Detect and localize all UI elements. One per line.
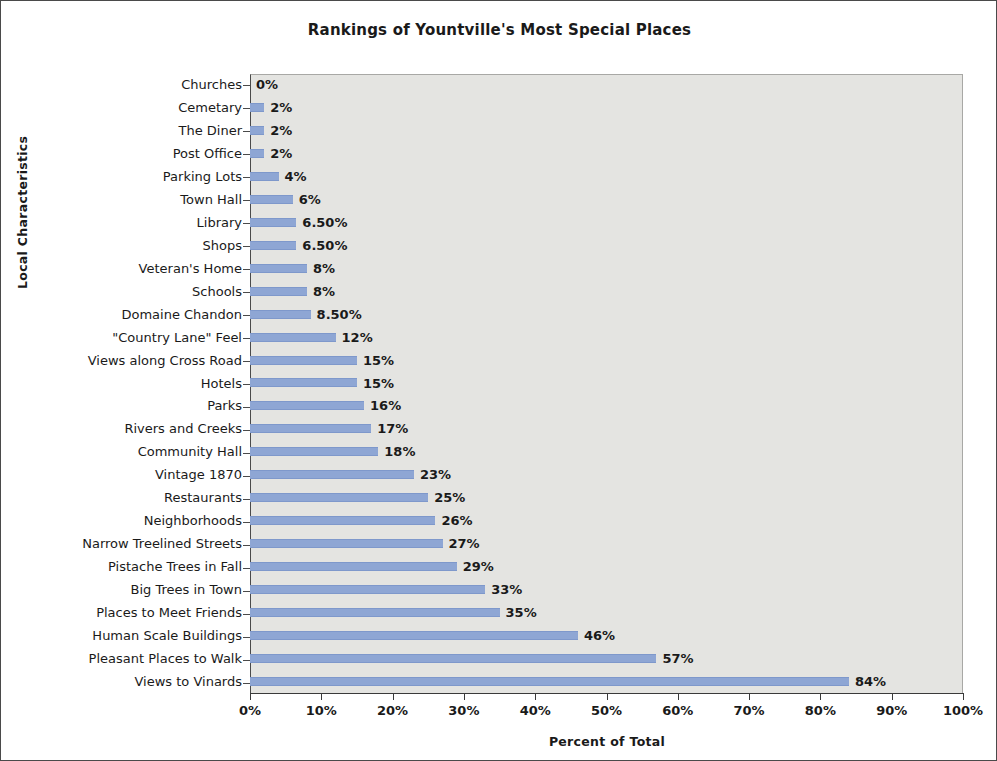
y-axis-tick — [243, 545, 250, 546]
x-axis-tick — [464, 694, 465, 700]
category-label: Vintage 1870 — [1, 464, 242, 487]
x-axis-tick-label: 70% — [734, 703, 765, 718]
bar-value-label: 2% — [265, 97, 292, 120]
category-label: Narrow Treelined Streets — [1, 533, 242, 556]
bar-value-label: 8.50% — [312, 304, 362, 327]
bar-value-label: 2% — [265, 143, 292, 166]
y-axis-tick — [243, 522, 250, 523]
bar-value-label: 16% — [365, 395, 401, 418]
y-axis-tick — [243, 292, 250, 293]
y-axis-tick — [243, 85, 250, 86]
bar-row: Parking Lots4% — [1, 166, 997, 189]
bar-value-label: 18% — [379, 441, 415, 464]
bar-value-label: 23% — [415, 464, 451, 487]
bar-row: Shops6.50% — [1, 235, 997, 258]
y-axis-tick — [243, 384, 250, 385]
bar — [250, 562, 457, 571]
bar — [250, 470, 414, 479]
bar — [250, 378, 357, 387]
bar-row: Views to Vinards84% — [1, 671, 997, 694]
bar-value-label: 29% — [458, 556, 494, 579]
bar — [250, 654, 656, 663]
category-label: Community Hall — [1, 441, 242, 464]
bar — [250, 149, 264, 158]
category-label: Big Trees in Town — [1, 579, 242, 602]
x-axis-tick — [820, 694, 821, 700]
bar-value-label: 35% — [501, 602, 537, 625]
chart-figure: Rankings of Yountville's Most Special Pl… — [0, 0, 997, 761]
bar-value-label: 8% — [308, 258, 335, 281]
x-axis-tick — [535, 694, 536, 700]
y-axis-tick — [243, 315, 250, 316]
bar — [250, 424, 371, 433]
x-axis-tick-label: 30% — [448, 703, 479, 718]
bar-row: Big Trees in Town33% — [1, 579, 997, 602]
bar-value-label: 0% — [251, 74, 278, 97]
bar-row: Domaine Chandon8.50% — [1, 304, 997, 327]
x-axis-tick-label: 0% — [239, 703, 261, 718]
bar-value-label: 25% — [429, 487, 465, 510]
bar — [250, 218, 296, 227]
x-axis-tick-label: 90% — [876, 703, 907, 718]
y-axis-tick — [243, 177, 250, 178]
bar — [250, 356, 357, 365]
x-axis-tick — [607, 694, 608, 700]
category-label: Parking Lots — [1, 166, 242, 189]
bar-value-label: 6.50% — [297, 212, 347, 235]
bar-row: Human Scale Buildings46% — [1, 625, 997, 648]
x-axis-tick-label: 40% — [520, 703, 551, 718]
category-label: Neighborhoods — [1, 510, 242, 533]
category-label: Rivers and Creeks — [1, 418, 242, 441]
y-axis-tick — [243, 660, 250, 661]
bar-row: Neighborhoods26% — [1, 510, 997, 533]
category-label: Post Office — [1, 143, 242, 166]
bar-value-label: 57% — [657, 648, 693, 671]
x-axis-tick-label: 100% — [943, 703, 983, 718]
x-axis-tick — [393, 694, 394, 700]
bar-row: "Country Lane" Feel12% — [1, 327, 997, 350]
x-axis-title: Percent of Total — [250, 734, 964, 749]
bar — [250, 677, 849, 686]
bar-value-label: 2% — [265, 120, 292, 143]
category-label: Places to Meet Friends — [1, 602, 242, 625]
x-axis-tick — [963, 694, 964, 700]
bar-row: Hotels15% — [1, 373, 997, 396]
bar-row: Pistache Trees in Fall29% — [1, 556, 997, 579]
bar — [250, 287, 307, 296]
bar-value-label: 26% — [436, 510, 472, 533]
x-axis-tick — [892, 694, 893, 700]
chart-title: Rankings of Yountville's Most Special Pl… — [1, 21, 997, 39]
category-label: Shops — [1, 235, 242, 258]
y-axis-tick — [243, 476, 250, 477]
bar — [250, 447, 378, 456]
y-axis-tick — [243, 430, 250, 431]
bar-value-label: 84% — [850, 671, 886, 694]
y-axis-tick — [243, 108, 250, 109]
category-label: Views along Cross Road — [1, 350, 242, 373]
bar-value-label: 6.50% — [297, 235, 347, 258]
bar-row: Views along Cross Road15% — [1, 350, 997, 373]
y-axis-tick — [243, 154, 250, 155]
y-axis-tick — [243, 361, 250, 362]
x-axis-tick-label: 10% — [306, 703, 337, 718]
category-label: Library — [1, 212, 242, 235]
bar — [250, 608, 500, 617]
category-label: Human Scale Buildings — [1, 625, 242, 648]
x-axis-tick-label: 50% — [591, 703, 622, 718]
x-axis-tick — [250, 694, 251, 700]
bar — [250, 333, 336, 342]
bar — [250, 493, 428, 502]
bar — [250, 401, 364, 410]
bar-value-label: 8% — [308, 281, 335, 304]
y-axis-tick — [243, 637, 250, 638]
bar-value-label: 4% — [280, 166, 307, 189]
bar-value-label: 15% — [358, 350, 394, 373]
category-label: "Country Lane" Feel — [1, 327, 242, 350]
bar-value-label: 27% — [444, 533, 480, 556]
category-label: Pleasant Places to Walk — [1, 648, 242, 671]
y-axis-tick — [243, 499, 250, 500]
x-axis-tick — [321, 694, 322, 700]
category-label: Domaine Chandon — [1, 304, 242, 327]
category-label: Views to Vinards — [1, 671, 242, 694]
category-label: Veteran's Home — [1, 258, 242, 281]
